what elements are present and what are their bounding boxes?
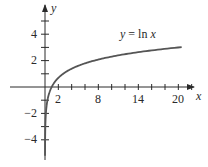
y-tick-label-2: 2 xyxy=(31,53,37,67)
x-tick-label-2: 2 xyxy=(55,92,61,106)
x-tick-label-8: 8 xyxy=(95,92,101,106)
x-tick-label-20: 20 xyxy=(172,92,184,106)
x-axis-label: x xyxy=(195,89,202,103)
curve-label: y = ln x xyxy=(119,27,156,41)
ln-chart: 2 8 14 20 4 2 −2 −4 y x y = ln x xyxy=(0,0,208,167)
y-tick-label-neg4: −4 xyxy=(24,132,37,146)
y-axis-label: y xyxy=(50,1,57,15)
ln-curve xyxy=(45,47,182,156)
x-tick-label-14: 14 xyxy=(132,92,144,106)
y-tick-label-neg2: −2 xyxy=(24,106,37,120)
y-tick-label-4: 4 xyxy=(31,27,37,41)
